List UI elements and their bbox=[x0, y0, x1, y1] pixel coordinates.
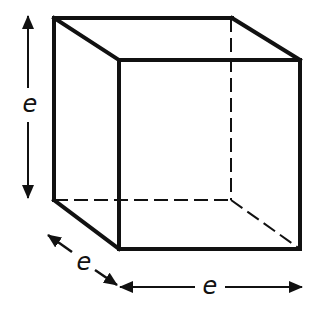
cube-diagram: e e e bbox=[0, 0, 324, 309]
visible-edges bbox=[54, 18, 300, 249]
hidden-edges bbox=[54, 18, 300, 249]
hidden-depth-edge bbox=[231, 200, 300, 249]
width-label: e bbox=[201, 274, 220, 298]
height-label: e bbox=[21, 92, 40, 116]
depth-label: e bbox=[75, 250, 94, 274]
cube-drawing bbox=[0, 0, 324, 309]
